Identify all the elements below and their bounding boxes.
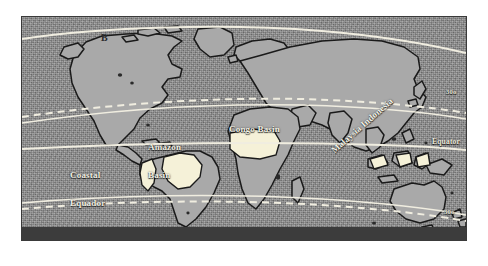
map-vector-layer	[22, 17, 466, 240]
world-map	[22, 17, 466, 240]
map-bottom-band	[22, 227, 466, 240]
island-speck-5	[186, 212, 189, 215]
island-speck-1	[276, 174, 280, 180]
british-isles-shape	[228, 55, 238, 63]
island-speck-3	[392, 137, 397, 141]
greenland-shape	[194, 27, 234, 57]
congo-basin-region	[230, 129, 280, 159]
southeast-asia-shape	[366, 127, 384, 153]
island-speck-8	[118, 73, 122, 77]
island-speck-4	[424, 142, 427, 145]
island-speck-9	[130, 81, 134, 84]
madagascar-shape	[292, 177, 304, 203]
philippines-shape	[402, 129, 414, 143]
island-speck-2	[146, 123, 150, 126]
island-speck-6	[372, 221, 376, 224]
map-canvas: Amazon Basin Coastal Equador Congo Basin…	[0, 0, 488, 266]
malaysia-highlight-c	[416, 153, 430, 167]
indonesia-java	[378, 175, 398, 183]
australia-shape	[390, 181, 446, 223]
central-america-shape	[116, 145, 142, 165]
arctic-island-c	[122, 35, 138, 42]
island-speck-10	[450, 192, 453, 195]
north-america-shape	[70, 33, 182, 145]
